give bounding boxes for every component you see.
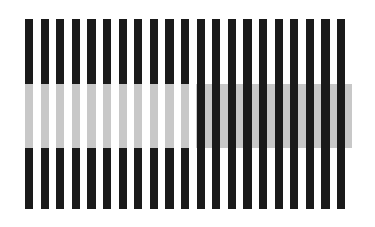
grating-stripe bbox=[41, 19, 49, 209]
grating-stripe bbox=[337, 19, 345, 209]
grating-stripe bbox=[56, 19, 64, 209]
illusion-figure bbox=[25, 19, 352, 209]
grating-stripe bbox=[72, 19, 80, 209]
grating-stripe bbox=[290, 19, 298, 209]
grating-stripe bbox=[87, 19, 95, 209]
grating-stripe bbox=[103, 19, 111, 209]
grating-stripe bbox=[306, 19, 314, 209]
grating-stripe bbox=[321, 19, 329, 209]
grating-stripe bbox=[134, 19, 142, 209]
grating-stripe bbox=[228, 19, 236, 209]
grating-stripe bbox=[275, 19, 283, 209]
illusion-canvas bbox=[0, 0, 375, 227]
grating-stripe bbox=[243, 19, 251, 209]
grating-stripe bbox=[212, 19, 220, 209]
grating-stripe bbox=[181, 19, 189, 209]
grating-stripe bbox=[150, 19, 158, 209]
grating-stripe bbox=[259, 19, 267, 209]
grating-stripe bbox=[25, 19, 33, 209]
grating-stripe bbox=[197, 19, 205, 209]
grating-stripe bbox=[119, 19, 127, 209]
stripe-grating bbox=[25, 19, 352, 209]
grating-stripe bbox=[165, 19, 173, 209]
